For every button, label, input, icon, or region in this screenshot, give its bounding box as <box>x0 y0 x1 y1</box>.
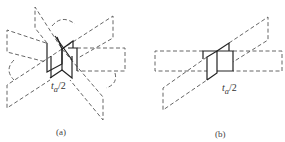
panel-b-drawing <box>155 17 282 110</box>
panel-b-horizontal-plane-right <box>233 51 282 71</box>
panel-a-lower-left-plane <box>7 49 62 108</box>
panel-b-right-rect <box>217 51 233 71</box>
panel-a-arc-top <box>52 19 75 26</box>
label-fraction: /2 <box>229 82 237 93</box>
label-fraction: /2 <box>58 80 66 91</box>
panel-a-upper-plane <box>35 7 62 49</box>
panel-a-front-fin <box>50 56 72 78</box>
panel-b-slanted-fin <box>207 51 217 80</box>
panel-a-lower-right-plane <box>62 49 103 120</box>
panel-b-horizontal-plane <box>155 51 207 71</box>
panel-b-caption: (b) <box>215 129 226 139</box>
panel-b-dimension-label: ta/2 <box>222 82 237 96</box>
panel-b-top-tab <box>217 43 229 51</box>
figure-canvas <box>0 0 285 142</box>
panel-b-diagonal-plane <box>229 17 268 62</box>
panel-a-drawing <box>7 7 125 120</box>
panel-a-right-plane <box>77 48 125 71</box>
panel-a-dimension-label: ta/2 <box>51 80 66 94</box>
panel-a-left-plane <box>7 30 46 62</box>
panel-b-diagonal-plane-lower <box>163 57 207 110</box>
panel-a-upper-right-plane <box>62 16 113 58</box>
panel-a-arc-left <box>9 60 14 80</box>
panel-a-arc-right <box>106 73 116 88</box>
panel-a-caption: (a) <box>56 127 66 137</box>
